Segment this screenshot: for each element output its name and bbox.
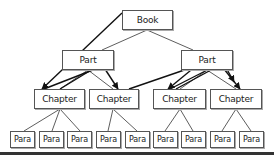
tree-edge [108,109,113,131]
tree-edge [147,30,193,50]
tree-edges [24,30,251,131]
node-ch2: Chapter [89,89,139,109]
node-label: Chapter [162,94,197,104]
node-p6: Para [153,131,178,148]
tree-edge [52,109,60,131]
bottom-divider [0,152,274,155]
node-ch3: Chapter [153,89,206,109]
node-label: Para [129,135,146,144]
tree-edge [165,109,180,131]
node-label: Chapter [42,94,77,104]
node-label: Para [71,135,88,144]
node-label: Para [100,135,117,144]
node-label: Para [43,135,60,144]
node-label: Book [137,15,159,25]
tree-edge [102,30,147,50]
node-label: Para [157,135,174,144]
node-label: Part [199,55,216,65]
node-label: Para [214,135,231,144]
tree-edge [60,109,80,131]
node-ch4: Chapter [210,89,262,109]
node-label: Part [80,55,97,65]
node-book: Book [122,10,173,30]
node-label: Para [243,135,260,144]
node-p5: Para [125,131,150,148]
node-ch1: Chapter [34,89,85,109]
diagram-canvas: BookPartPartChapterChapterChapterChapter… [0,0,274,156]
tree-edge [180,109,193,131]
tree-edge [88,70,113,89]
tree-edge [113,109,137,131]
node-label: Chapter [219,94,254,104]
tree-edge [24,109,60,131]
tree-edge [222,109,236,131]
node-label: Para [14,135,31,144]
node-label: Para [185,135,202,144]
node-p3: Para [67,131,92,148]
node-p7: Para [181,131,206,148]
node-p2: Para [39,131,64,148]
node-p8: Para [210,131,235,148]
node-label: Chapter [97,94,132,104]
node-part1: Part [62,50,114,70]
node-p4: Para [96,131,121,148]
tree-edge [236,109,251,131]
node-p9: Para [239,131,264,148]
node-part2: Part [181,50,233,70]
node-p1: Para [10,131,35,148]
